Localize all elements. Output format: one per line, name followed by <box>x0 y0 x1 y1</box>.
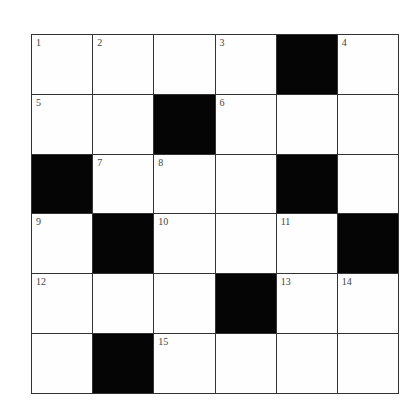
crossword-cell[interactable]: 14 <box>338 274 398 333</box>
crossword-cell[interactable] <box>216 334 276 393</box>
crossword-grid: 123456789101112131415 <box>31 34 399 394</box>
clue-number: 13 <box>281 277 291 287</box>
clue-number: 11 <box>281 217 291 227</box>
crossword-cell[interactable]: 8 <box>154 155 214 214</box>
crossword-cell[interactable] <box>216 214 276 273</box>
black-cell <box>216 274 276 333</box>
crossword-cell[interactable] <box>277 95 337 154</box>
crossword-cell[interactable] <box>154 35 214 94</box>
black-cell <box>338 214 398 273</box>
clue-number: 14 <box>342 277 352 287</box>
crossword-cell[interactable] <box>32 334 92 393</box>
black-cell <box>277 35 337 94</box>
crossword-cell[interactable]: 3 <box>216 35 276 94</box>
clue-number: 2 <box>97 38 102 48</box>
crossword-cell[interactable] <box>277 334 337 393</box>
crossword-cell[interactable]: 10 <box>154 214 214 273</box>
black-cell <box>277 155 337 214</box>
clue-number: 10 <box>158 217 168 227</box>
crossword-cell[interactable]: 6 <box>216 95 276 154</box>
clue-number: 6 <box>220 98 225 108</box>
clue-number: 5 <box>36 98 41 108</box>
black-cell <box>93 334 153 393</box>
crossword-cell[interactable] <box>338 334 398 393</box>
crossword-cell[interactable] <box>338 155 398 214</box>
clue-number: 3 <box>220 38 225 48</box>
crossword-cell[interactable] <box>93 95 153 154</box>
crossword-cell[interactable]: 4 <box>338 35 398 94</box>
clue-number: 15 <box>158 337 168 347</box>
clue-number: 12 <box>36 277 46 287</box>
crossword-cell[interactable]: 13 <box>277 274 337 333</box>
crossword-cell[interactable] <box>216 155 276 214</box>
crossword-cell[interactable]: 15 <box>154 334 214 393</box>
crossword-cell[interactable]: 9 <box>32 214 92 273</box>
crossword-cell[interactable] <box>93 274 153 333</box>
clue-number: 1 <box>36 38 41 48</box>
clue-number: 4 <box>342 38 347 48</box>
black-cell <box>32 155 92 214</box>
crossword-cell[interactable] <box>154 274 214 333</box>
crossword-cell[interactable] <box>338 95 398 154</box>
crossword-cell[interactable]: 1 <box>32 35 92 94</box>
crossword-cell[interactable]: 12 <box>32 274 92 333</box>
crossword-cell[interactable]: 2 <box>93 35 153 94</box>
clue-number: 9 <box>36 217 41 227</box>
crossword-cell[interactable]: 7 <box>93 155 153 214</box>
crossword-cell[interactable]: 5 <box>32 95 92 154</box>
crossword-cell[interactable]: 11 <box>277 214 337 273</box>
clue-number: 7 <box>97 158 102 168</box>
black-cell <box>93 214 153 273</box>
clue-number: 8 <box>158 158 163 168</box>
black-cell <box>154 95 214 154</box>
